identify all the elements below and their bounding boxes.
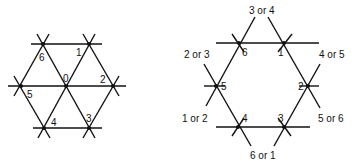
left-label-1: 1: [76, 47, 82, 58]
right-node-3: [282, 125, 286, 129]
right-hexagon-diagram: 1 2 3 4 5 6 3 or 4 4 or 5 5 or 6 6 or 1 …: [182, 5, 345, 161]
left-node-6: [41, 42, 45, 46]
left-label-2: 2: [100, 74, 106, 85]
left-node-4: [42, 126, 46, 130]
right-node-6: [237, 41, 241, 45]
left-label-6: 6: [39, 52, 45, 63]
right-outer-label-upper-left: 2 or 3: [184, 49, 210, 60]
right-label-3: 3: [278, 113, 284, 124]
right-outer-label-top: 3 or 4: [249, 5, 275, 16]
left-node-2: [111, 84, 115, 88]
left-node-3: [87, 126, 91, 130]
right-label-2: 2: [298, 81, 304, 92]
left-node-1: [87, 42, 91, 46]
right-label-1: 1: [278, 47, 284, 58]
right-label-4: 4: [242, 113, 248, 124]
left-node-0: [64, 84, 68, 88]
right-diagonal-line: [268, 17, 320, 108]
left-label-3: 3: [86, 113, 92, 124]
right-outer-label-lower-right: 5 or 6: [318, 113, 344, 124]
right-diagonal-line: [204, 64, 251, 146]
right-label-5: 5: [221, 81, 227, 92]
right-outer-label-upper-right: 4 or 5: [319, 49, 345, 60]
right-label-6: 6: [242, 47, 248, 58]
left-node-5: [19, 84, 23, 88]
right-node-5: [214, 84, 218, 88]
diagram-canvas: 0 1 2 3 4 5 6 1 2 3 4 5: [0, 0, 352, 166]
left-lattice-diagram: 0 1 2 3 4 5 6: [8, 34, 126, 138]
right-node-1: [282, 41, 286, 45]
right-node-2: [306, 84, 310, 88]
right-node-4: [236, 125, 240, 129]
left-label-4: 4: [51, 117, 57, 128]
right-outer-label-bottom: 6 or 1: [250, 150, 276, 161]
left-label-0: 0: [63, 73, 69, 84]
right-outer-label-lower-left: 1 or 2: [182, 113, 208, 124]
right-diagonal-line: [206, 17, 255, 106]
left-label-5: 5: [27, 89, 33, 100]
right-diagonal-line: [274, 64, 320, 146]
